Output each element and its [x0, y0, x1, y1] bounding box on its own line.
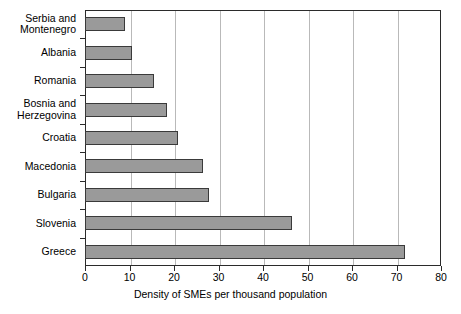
- x-axis-tick-label: 70: [382, 271, 412, 283]
- x-axis-tick-labels: 01020304050607080: [0, 271, 461, 285]
- bar: [85, 188, 209, 202]
- bar-row: [85, 181, 441, 209]
- y-axis-label: Serbia and Montenegro: [0, 13, 80, 36]
- x-axis-tick-label: 50: [293, 271, 323, 283]
- x-axis-tick-label: 10: [115, 271, 145, 283]
- bar-row: [85, 209, 441, 237]
- x-axis-tick-label: 30: [204, 271, 234, 283]
- bar-row: [85, 38, 441, 66]
- y-axis-label: Croatia: [0, 132, 80, 144]
- bars-layer: [85, 10, 441, 266]
- bar: [85, 74, 154, 88]
- y-axis-label: Romania: [0, 75, 80, 87]
- y-axis-label: Albania: [0, 47, 80, 59]
- bar-chart: Serbia and MontenegroAlbaniaRomaniaBosni…: [0, 0, 461, 314]
- bar: [85, 46, 132, 60]
- x-axis-tick-label: 80: [426, 271, 456, 283]
- bar-row: [85, 152, 441, 180]
- bar: [85, 159, 203, 173]
- y-axis-tick: [80, 152, 85, 153]
- y-axis-label: Bosnia and Herzegovina: [0, 98, 80, 121]
- y-axis-tick: [80, 181, 85, 182]
- bar-row: [85, 124, 441, 152]
- x-axis-tick-label: 40: [248, 271, 278, 283]
- y-axis-tick: [80, 38, 85, 39]
- x-axis-tick-label: 60: [337, 271, 367, 283]
- y-axis-tick: [80, 67, 85, 68]
- y-axis-tick: [80, 238, 85, 239]
- bar-row: [85, 238, 441, 266]
- x-axis-tick-label: 0: [70, 271, 100, 283]
- bar-row: [85, 10, 441, 38]
- y-axis-label: Macedonia: [0, 161, 80, 173]
- bar: [85, 245, 405, 259]
- y-axis-tick: [80, 124, 85, 125]
- x-axis-tick-label: 20: [159, 271, 189, 283]
- y-axis-label: Greece: [0, 246, 80, 258]
- bar-row: [85, 95, 441, 123]
- y-axis-label: Bulgaria: [0, 189, 80, 201]
- bar: [85, 131, 178, 145]
- bar: [85, 216, 292, 230]
- y-axis-tick: [80, 95, 85, 96]
- bar-row: [85, 67, 441, 95]
- y-axis-label: Slovenia: [0, 218, 80, 230]
- bar: [85, 103, 167, 117]
- bar: [85, 17, 125, 31]
- y-axis-tick: [80, 209, 85, 210]
- x-axis-title: Density of SMEs per thousand population: [0, 288, 461, 300]
- y-axis-labels: Serbia and MontenegroAlbaniaRomaniaBosni…: [0, 10, 80, 266]
